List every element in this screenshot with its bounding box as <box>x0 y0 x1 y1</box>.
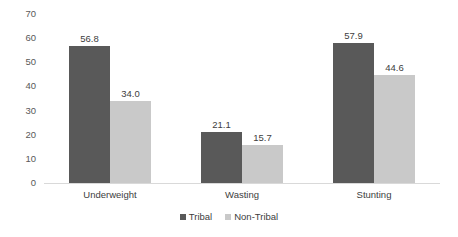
y-axis: 706050403020100 <box>0 0 44 197</box>
bar-wasting-tribal <box>201 132 242 183</box>
x-axis-baseline <box>44 183 440 184</box>
x-axis-category-label: Stunting <box>357 189 392 200</box>
bar-value-label: 34.0 <box>121 88 140 99</box>
legend-label: Non-Tribal <box>234 211 278 222</box>
bar-underweight-non-tribal <box>110 101 151 183</box>
y-axis-tick-label: 40 <box>25 81 36 91</box>
x-axis-category-label: Underweight <box>83 189 136 200</box>
legend-item-tribal[interactable]: Tribal <box>180 211 212 222</box>
y-axis-tick-label: 50 <box>25 57 36 67</box>
legend-label: Tribal <box>189 211 212 222</box>
chart-legend: TribalNon-Tribal <box>0 211 458 222</box>
bar-chart: 706050403020100 56.834.021.115.757.944.6… <box>0 0 458 237</box>
y-axis-tick-label: 70 <box>25 9 36 19</box>
legend-swatch-icon <box>225 214 231 220</box>
bar-slot: 57.9 <box>333 14 374 183</box>
x-axis-category-label: Wasting <box>225 189 259 200</box>
y-axis-tick-label: 60 <box>25 33 36 43</box>
bar-value-label: 44.6 <box>385 62 404 73</box>
bar-value-label: 21.1 <box>212 119 231 130</box>
bar-slot: 21.1 <box>201 14 242 183</box>
bar-underweight-tribal <box>69 46 110 183</box>
bar-value-label: 15.7 <box>253 132 272 143</box>
bar-group: 21.115.7 <box>176 14 308 183</box>
bar-value-label: 57.9 <box>344 30 363 41</box>
legend-swatch-icon <box>180 214 186 220</box>
plot-area: 56.834.021.115.757.944.6 <box>44 14 440 183</box>
y-axis-tick-label: 30 <box>25 106 36 116</box>
bar-wasting-non-tribal <box>242 145 283 183</box>
bar-slot: 15.7 <box>242 14 283 183</box>
bar-slot: 34.0 <box>110 14 151 183</box>
bar-stunting-tribal <box>333 43 374 183</box>
bar-value-label: 56.8 <box>80 33 99 44</box>
y-axis-tick-label: 20 <box>25 130 36 140</box>
bar-slot: 44.6 <box>374 14 415 183</box>
y-axis-tick-label: 10 <box>25 154 36 164</box>
legend-item-non-tribal[interactable]: Non-Tribal <box>225 211 278 222</box>
bar-group: 56.834.0 <box>44 14 176 183</box>
bar-slot: 56.8 <box>69 14 110 183</box>
bar-stunting-non-tribal <box>374 75 415 183</box>
bar-group: 57.944.6 <box>308 14 440 183</box>
y-axis-tick-label: 0 <box>31 178 36 188</box>
